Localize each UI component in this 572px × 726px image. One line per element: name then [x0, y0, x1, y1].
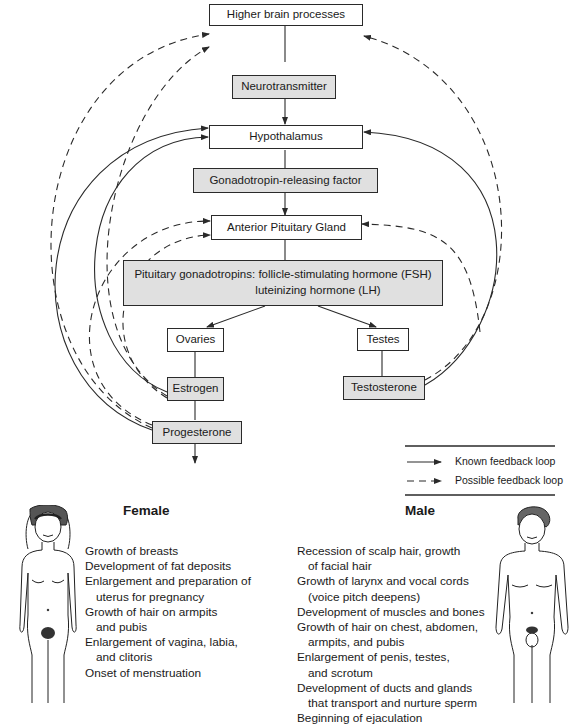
female-characteristic-item: uterus for pregnancy: [85, 590, 251, 605]
male-characteristic-item: Growth of larynx and vocal cords: [297, 574, 485, 589]
female-characteristic-item: Growth of hair on armpits: [85, 605, 251, 620]
node-label-line1: Pituitary gonadotropins: follicle-stimul…: [134, 267, 431, 283]
female-characteristic-item: Enlargement of vagina, labia,: [85, 635, 251, 650]
female-characteristic-item: and clitoris: [85, 650, 251, 665]
male-characteristic-item: Development of muscles and bones: [297, 605, 485, 620]
male-characteristic-item: Growth of hair on chest, abdomen,: [297, 620, 485, 635]
female-heading: Female: [123, 503, 170, 518]
node-higher-brain-processes: Higher brain processes: [209, 4, 363, 26]
male-characteristics-list: Recession of scalp hair, growthof facial…: [297, 544, 485, 726]
node-gonadotropin-releasing-factor: Gonadotropin-releasing factor: [193, 168, 378, 193]
male-characteristic-item: of facial hair: [297, 559, 485, 574]
male-characteristic-item: that transport and nurture sperm: [297, 696, 485, 711]
node-pituitary-gonadotropins: Pituitary gonadotropins: follicle-stimul…: [123, 260, 443, 306]
male-characteristic-item: Recession of scalp hair, growth: [297, 544, 485, 559]
male-characteristic-item: Development of ducts and glands: [297, 681, 485, 696]
male-characteristic-item: armpits, and pubis: [297, 635, 485, 650]
female-characteristic-item: Growth of breasts: [85, 544, 251, 559]
male-characteristic-item: Enlargement of penis, testes,: [297, 650, 485, 665]
node-label: Neurotransmitter: [241, 79, 327, 95]
female-characteristics-list: Growth of breastsDevelopment of fat depo…: [85, 544, 251, 681]
male-characteristic-item: and scrotum: [297, 666, 485, 681]
male-figure-illustration: [488, 505, 572, 703]
female-characteristic-item: and pubis: [85, 620, 251, 635]
node-label: Progesterone: [162, 425, 231, 441]
node-neurotransmitter: Neurotransmitter: [232, 75, 336, 99]
node-ovaries: Ovaries: [167, 328, 224, 352]
node-label: Testes: [366, 332, 399, 348]
legend-known-feedback-loop: Known feedback loop: [455, 455, 555, 467]
node-label: Hypothalamus: [249, 129, 323, 145]
node-estrogen: Estrogen: [167, 377, 224, 401]
node-label: Higher brain processes: [227, 7, 345, 23]
node-label: Ovaries: [176, 332, 216, 348]
female-figure-illustration: [8, 505, 78, 703]
legend-possible-feedback-loop: Possible feedback loop: [455, 474, 563, 486]
node-testes: Testes: [357, 328, 409, 351]
node-label-line2: luteinizing hormone (LH): [185, 283, 380, 299]
node-testosterone: Testosterone: [343, 376, 425, 400]
male-heading: Male: [405, 503, 435, 518]
node-label: Anterior Pituitary Gland: [227, 220, 346, 236]
node-label: Testosterone: [351, 380, 417, 396]
female-characteristic-item: Development of fat deposits: [85, 559, 251, 574]
male-characteristic-item: (voice pitch deepens): [297, 590, 485, 605]
female-characteristic-item: Onset of menstruation: [85, 666, 251, 681]
node-label: Estrogen: [172, 381, 218, 397]
node-progesterone: Progesterone: [152, 421, 242, 444]
node-hypothalamus: Hypothalamus: [209, 125, 363, 149]
female-characteristic-item: Enlargement and preparation of: [85, 574, 251, 589]
node-anterior-pituitary-gland: Anterior Pituitary Gland: [211, 215, 362, 240]
male-characteristic-item: Beginning of ejaculation: [297, 711, 485, 726]
node-label: Gonadotropin-releasing factor: [209, 173, 361, 189]
